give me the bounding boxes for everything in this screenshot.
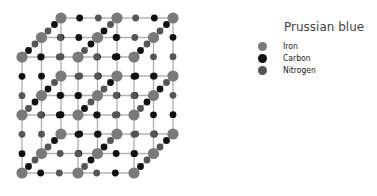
carbon-atom bbox=[88, 41, 95, 48]
nitrogen-atom bbox=[19, 131, 26, 138]
iron-atom bbox=[167, 70, 178, 81]
iron-atom bbox=[36, 90, 47, 101]
carbon-atom bbox=[157, 86, 164, 93]
carbon-atom bbox=[112, 54, 119, 61]
carbon-atom bbox=[107, 79, 114, 86]
carbon-atom bbox=[81, 105, 88, 112]
carbon-atom bbox=[170, 111, 177, 118]
iron-atom bbox=[55, 70, 66, 81]
carbon-atom bbox=[101, 28, 108, 35]
carbon-atom bbox=[94, 131, 101, 138]
iron-atom bbox=[92, 148, 103, 159]
iron-atom bbox=[55, 12, 66, 23]
carbon-atom bbox=[51, 21, 58, 28]
nitrogen-atom bbox=[137, 105, 144, 112]
nitrogen-atom bbox=[88, 99, 95, 106]
carbon-atom bbox=[25, 47, 32, 54]
carbon-atom bbox=[75, 92, 82, 99]
nitrogen-atom bbox=[81, 47, 88, 54]
nitrogen-atom bbox=[170, 92, 177, 99]
nitrogen-atom bbox=[150, 131, 157, 138]
carbon-atom bbox=[93, 112, 100, 119]
iron-atom bbox=[72, 51, 83, 62]
iron-atom bbox=[148, 32, 159, 43]
nitrogen-atom bbox=[51, 79, 58, 86]
nitrogen-atom bbox=[56, 54, 63, 61]
carbon-atom bbox=[76, 15, 83, 22]
carbon-atom bbox=[144, 99, 151, 106]
nitrogen-atom bbox=[131, 92, 138, 99]
carbon-atom bbox=[151, 15, 158, 22]
nitrogen-atom bbox=[107, 137, 114, 144]
nitrogen-atom bbox=[157, 28, 164, 35]
iron-atom bbox=[148, 148, 159, 159]
legend-item-carbon: Carbon bbox=[258, 52, 315, 64]
nitrogen-atom bbox=[19, 92, 26, 99]
iron-atom bbox=[148, 90, 159, 101]
nitrogen-atom bbox=[75, 150, 82, 157]
iron-atom bbox=[167, 128, 178, 139]
carbon-atom bbox=[38, 73, 45, 80]
carbon-atom bbox=[19, 73, 26, 80]
carbon-atom bbox=[32, 99, 39, 106]
iron-atom bbox=[72, 109, 83, 120]
carbon-atom bbox=[101, 144, 108, 151]
nitrogen-atom bbox=[93, 170, 100, 177]
iron-atom bbox=[92, 90, 103, 101]
carbon-atom bbox=[131, 150, 138, 157]
iron-atom bbox=[92, 32, 103, 43]
carbon-atom bbox=[112, 170, 119, 177]
iron-atom bbox=[111, 128, 122, 139]
nitrogen-atom bbox=[131, 131, 138, 138]
carbon-atom bbox=[113, 150, 120, 157]
nitrogen-atom bbox=[144, 157, 151, 164]
nitrogen-atom bbox=[107, 21, 114, 28]
nitrogen-atom bbox=[112, 112, 119, 119]
iron-atom bbox=[128, 51, 139, 62]
carbon-atom bbox=[37, 54, 44, 61]
iron-atom bbox=[72, 167, 83, 178]
nitrogen-atom bbox=[95, 15, 102, 22]
nitrogen-atom bbox=[32, 41, 39, 48]
iron-atom bbox=[128, 167, 139, 178]
carbon-atom bbox=[75, 131, 82, 138]
nitrogen-atom bbox=[93, 54, 100, 61]
nitrogen-atom bbox=[57, 34, 64, 41]
nitrogen-atom bbox=[157, 144, 164, 151]
nitrogen-atom bbox=[37, 112, 44, 119]
nitrogen-atom bbox=[38, 131, 45, 138]
carbon-atom bbox=[150, 73, 157, 80]
carbon-atom bbox=[19, 150, 26, 157]
carbon-atom bbox=[163, 21, 170, 28]
iron-atom bbox=[111, 12, 122, 23]
nitrogen-atom bbox=[163, 79, 170, 86]
iron-atom bbox=[36, 148, 47, 159]
carbon-atom bbox=[88, 157, 95, 164]
iron-atom bbox=[55, 128, 66, 139]
iron-atom bbox=[16, 51, 27, 62]
carbon-atom bbox=[163, 137, 170, 144]
nitrogen-dot-icon bbox=[258, 66, 267, 75]
nitrogen-atom bbox=[81, 163, 88, 170]
carbon-atom bbox=[51, 137, 58, 144]
legend-title: Prussian blue bbox=[284, 20, 364, 34]
nitrogen-atom bbox=[144, 41, 151, 48]
nitrogen-atom bbox=[45, 28, 52, 35]
nitrogen-atom bbox=[113, 92, 120, 99]
iron-dot-icon bbox=[258, 42, 267, 51]
carbon-atom bbox=[56, 112, 63, 119]
legend-item-iron: Iron bbox=[258, 40, 300, 52]
carbon-atom bbox=[57, 92, 64, 99]
nitrogen-atom bbox=[75, 73, 82, 80]
nitrogen-atom bbox=[25, 105, 32, 112]
nitrogen-atom bbox=[101, 86, 108, 93]
carbon-atom bbox=[137, 163, 144, 170]
nitrogen-atom bbox=[56, 170, 63, 177]
iron-atom bbox=[16, 167, 27, 178]
carbon-atom bbox=[37, 170, 44, 177]
legend-item-nitrogen: Nitrogen bbox=[258, 64, 322, 76]
carbon-atom bbox=[170, 34, 177, 41]
nitrogen-atom bbox=[45, 144, 52, 151]
iron-atom bbox=[128, 109, 139, 120]
nitrogen-atom bbox=[32, 157, 39, 164]
